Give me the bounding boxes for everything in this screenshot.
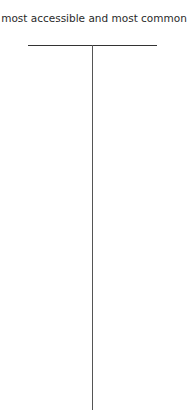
- vertical-connector-line: [92, 45, 93, 410]
- top-label: most accessible and most common: [0, 12, 188, 24]
